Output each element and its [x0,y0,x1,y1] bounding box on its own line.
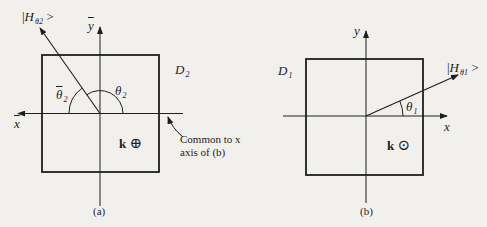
h-subscript: θ2 [35,17,43,26]
d-subscript: 1 [288,71,292,80]
h-theta2-vector [40,28,100,114]
theta2-label: θ2 [115,84,126,100]
figure-b [283,31,458,203]
d-symbol: D [175,62,184,77]
theta1-arc [400,101,403,116]
domain-square-d1 [306,59,423,175]
caption-a: (a) [93,206,105,217]
k-out-of-page-label: k ⊙ [387,138,410,153]
y-axis-label: y [354,24,360,37]
common-axis-note: Common to x axis of (b) [180,133,241,159]
ket-close: > [468,60,479,75]
theta-bar-subscript: 2 [63,95,67,104]
k-symbol: k [119,136,126,151]
h-symbol: H [25,9,34,24]
theta-symbol: θ [406,99,412,114]
d-subscript: 2 [185,70,189,79]
theta-symbol: θ [115,83,121,98]
x-axis-label: x [444,120,450,133]
theta1-label: θ1 [406,100,417,116]
theta-bar2-label: θ2 [56,88,67,104]
d2-label: D2 [175,63,189,79]
k-into-page-label: k ⊕ [119,136,142,151]
out-of-page-icon: ⊙ [397,137,410,153]
h-theta1-label: |Hθ1 > [447,61,479,77]
note-line-2: axis of (b) [180,146,241,159]
into-page-icon: ⊕ [129,135,142,151]
theta-subscript: 2 [122,91,126,100]
h-subscript: θ1 [460,68,468,77]
caption-b: (b) [360,206,373,217]
k-symbol: k [387,138,394,153]
d-symbol: D [278,63,287,78]
d1-label: D1 [278,64,292,80]
y-bar-axis-label: y [88,19,94,32]
h-theta2-label: |Hθ2 > [22,10,54,26]
theta-subscript: 1 [413,107,417,116]
theta-bar2-arc [69,88,82,113]
theta-bar-symbol: θ [56,87,62,102]
note-line-1: Common to x [180,133,241,146]
x-bar-axis-label: x [14,117,20,130]
figure-a [18,27,183,206]
h-symbol: H [450,60,459,75]
ket-close: > [43,9,54,24]
